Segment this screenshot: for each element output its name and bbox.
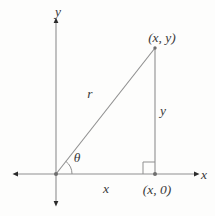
- vertical-leg-label: y: [158, 103, 166, 118]
- triangle-polar-diagram: y x (x, y) (x, 0) r y x θ: [0, 0, 215, 216]
- foot-point: [153, 172, 157, 176]
- diagram-canvas: y x (x, y) (x, 0) r y x θ: [0, 0, 215, 216]
- foot-point-label: (x, 0): [143, 182, 172, 197]
- hypotenuse-label: r: [87, 86, 93, 101]
- origin-point: [54, 172, 58, 176]
- x-axis-label: x: [200, 167, 207, 182]
- apex-point: [153, 46, 156, 49]
- apex-point-label: (x, y): [148, 30, 176, 45]
- angle-theta-label: θ: [74, 150, 81, 165]
- horizontal-leg-label: x: [102, 181, 109, 196]
- y-axis-label: y: [53, 4, 61, 19]
